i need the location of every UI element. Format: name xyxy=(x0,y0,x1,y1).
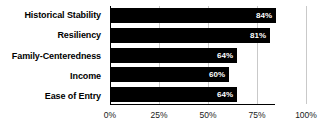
bar-value-label: 60% xyxy=(209,67,225,82)
bar-row: 64% xyxy=(111,87,308,102)
bar-row: 84% xyxy=(111,8,308,23)
bar-row: 81% xyxy=(111,28,308,43)
bar-row: 64% xyxy=(111,48,308,63)
tick-label-100: 100% xyxy=(295,108,317,122)
category-label: Ease of Entry xyxy=(0,89,106,104)
category-label: Historical Stability xyxy=(0,8,106,23)
bar-income: 60% xyxy=(111,67,229,82)
bar-chart: Historical Stability Resiliency Family-C… xyxy=(0,0,330,133)
bar-value-label: 64% xyxy=(217,48,233,63)
tick-label-25: 25% xyxy=(150,108,167,122)
category-axis-labels: Historical Stability Resiliency Family-C… xyxy=(0,8,106,104)
plot-area: 84% 81% 64% 60% 64% xyxy=(110,6,308,104)
bar-resiliency: 81% xyxy=(111,28,270,43)
tick-label-75: 75% xyxy=(248,108,265,122)
category-label: Resiliency xyxy=(0,28,106,43)
bar-value-label: 81% xyxy=(250,28,266,43)
bar-value-label: 64% xyxy=(217,87,233,102)
bar-series: 84% 81% 64% 60% 64% xyxy=(111,8,308,102)
bar-historical-stability: 84% xyxy=(111,8,276,23)
category-axis-line xyxy=(110,104,275,105)
tick-label-50: 50% xyxy=(199,108,216,122)
value-axis-tick-labels: 0% 25% 50% 75% 100% xyxy=(110,108,310,122)
bar-ease-of-entry: 64% xyxy=(111,87,237,102)
bar-value-label: 84% xyxy=(256,8,272,23)
tick-label-0: 0% xyxy=(104,108,116,122)
bar-family-centeredness: 64% xyxy=(111,48,237,63)
category-label: Family-Centeredness xyxy=(0,49,106,64)
bar-row: 60% xyxy=(111,67,308,82)
category-label: Income xyxy=(0,69,106,84)
